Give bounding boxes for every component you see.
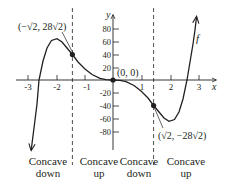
inflection-point-left: [70, 52, 75, 57]
inflection-point-right: [151, 103, 156, 108]
svg-text:80: 80: [103, 24, 112, 34]
y-tick-labels: 80 60 40 20 -20 -40 -60 -80: [100, 24, 111, 137]
leader-line-right: [154, 107, 163, 128]
svg-text:-80: -80: [100, 127, 111, 137]
svg-text:2: 2: [169, 82, 174, 92]
svg-text:-20: -20: [100, 88, 111, 98]
point-label-left: (−√2, 28√2): [18, 21, 66, 33]
svg-text:-3: -3: [24, 82, 32, 92]
point-label-origin: (0, 0): [117, 67, 139, 79]
leader-line-left: [62, 32, 73, 53]
y-axis-label: y: [105, 9, 111, 20]
inflection-point-origin: [110, 77, 115, 82]
svg-text:-60: -60: [100, 114, 111, 124]
svg-text:-2: -2: [53, 82, 61, 92]
region-caption-1: Concavedown: [22, 155, 74, 179]
svg-text:-40: -40: [100, 101, 111, 111]
svg-text:20: 20: [103, 63, 112, 73]
region-caption-3: Concavedown: [113, 155, 165, 179]
svg-text:40: 40: [103, 50, 112, 60]
svg-text:-1: -1: [83, 82, 91, 92]
function-label: f: [196, 32, 201, 44]
x-axis-label: x: [211, 81, 217, 92]
region-caption-4: Concaveup: [160, 155, 212, 179]
svg-text:3: 3: [197, 82, 202, 92]
point-label-right: (√2, −28√2): [158, 130, 206, 142]
svg-text:60: 60: [103, 37, 112, 47]
